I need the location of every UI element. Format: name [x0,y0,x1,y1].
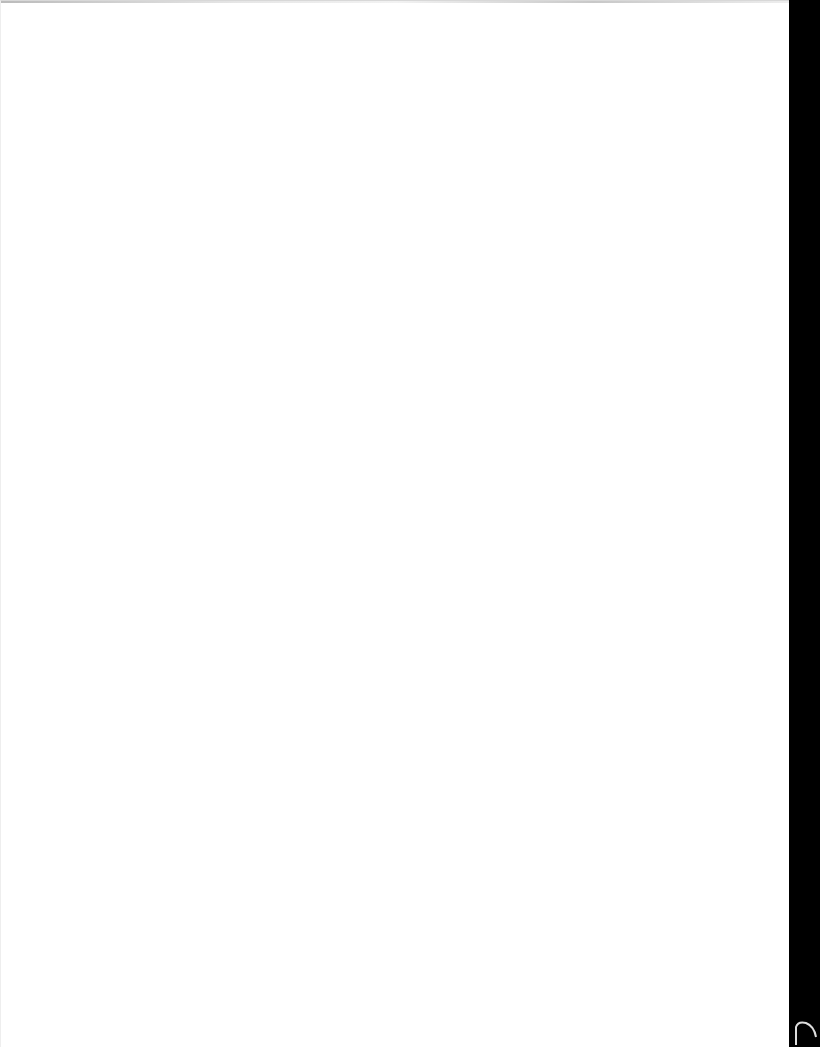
page-top-edge [1,1,791,3]
scanned-document [0,0,820,1047]
page-corner-curl-icon [794,1019,818,1045]
scanner-black-edge [789,0,820,1047]
blank-page [0,0,790,1047]
page-body [41,41,750,1007]
